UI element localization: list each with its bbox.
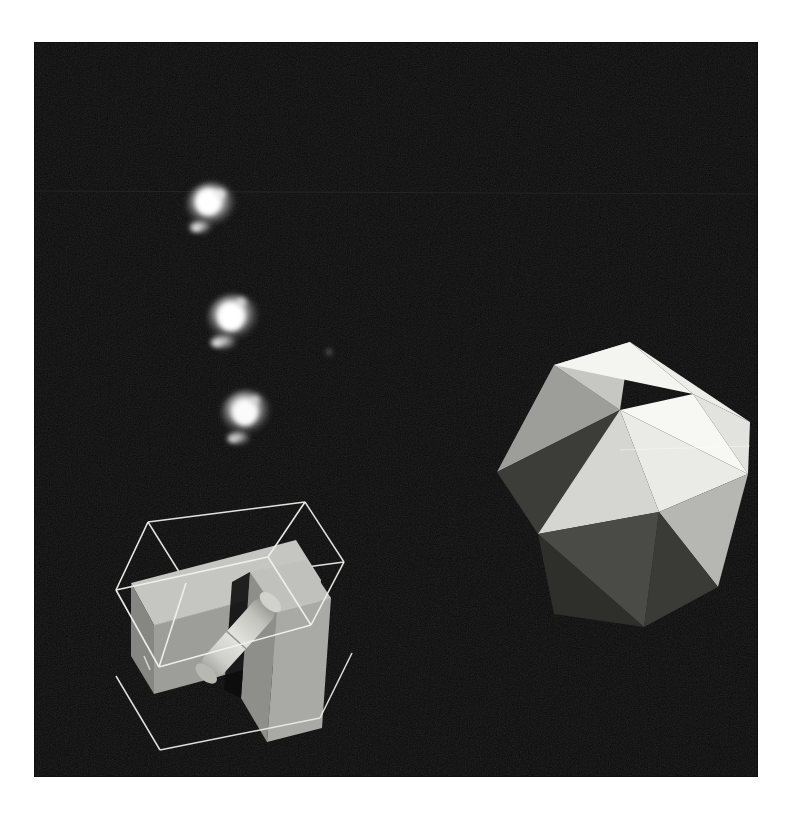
- raytraced-scene-canvas: [34, 42, 758, 777]
- render-frame: [34, 42, 758, 777]
- gray-box-slab: [241, 560, 331, 742]
- screenshot-stage: Raytraced CGI test scene wireframe-cube …: [0, 0, 792, 816]
- lone-particle-dot: [325, 348, 333, 356]
